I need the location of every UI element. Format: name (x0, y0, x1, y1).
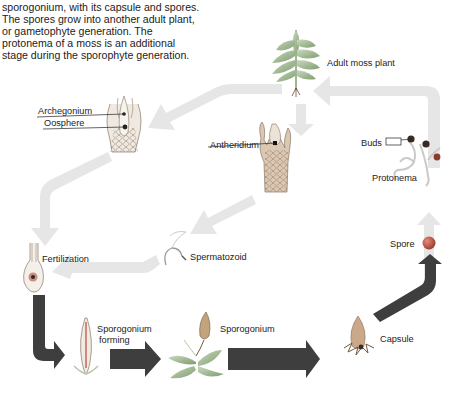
fertilization-illustration (24, 243, 44, 292)
label-antheridium: Antheridium (210, 140, 259, 150)
label-oosphere: Oosphere (44, 118, 84, 128)
label-fertilization: Fertilization (42, 254, 89, 264)
label-sporogonium: Sporogonium (220, 324, 275, 334)
arrow-forming-to-sporogonium (110, 341, 161, 377)
arrow-archegonium-to-fertilization (31, 152, 112, 246)
label-archegonium: Archegonium (38, 106, 92, 116)
arrow-adult-to-antheridium (288, 104, 314, 136)
life-cycle-diagram: Adult moss plant Archegonium Oosphere An… (0, 0, 470, 404)
sporogonium-forming-illustration (74, 318, 98, 374)
label-buds: Buds (361, 138, 382, 148)
label-spermatozoid: Spermatozoid (190, 252, 247, 262)
arrow-fertilization-to-sporogonium-forming (33, 295, 65, 369)
arrow-antheridium-to-spermatozoid (190, 195, 256, 234)
spore-illustration (423, 237, 436, 250)
arrow-capsule-to-spore (373, 254, 442, 322)
spermatozoid-illustration (165, 232, 186, 266)
label-spore: Spore (390, 239, 415, 249)
antheridium-illustration (208, 122, 291, 192)
capsule-illustration (344, 316, 374, 355)
arrow-protonema-to-adult (313, 76, 440, 168)
label-sporogonium-forming-2: forming (99, 335, 130, 345)
arrow-sporogonium-to-capsule (228, 340, 320, 378)
label-capsule: Capsule (380, 334, 414, 344)
label-sporogonium-forming-1: Sporogonium (97, 324, 152, 334)
label-protonema: Protonema (372, 173, 418, 183)
sporogonium-illustration (168, 312, 224, 378)
label-adult-moss-plant: Adult moss plant (327, 58, 395, 68)
